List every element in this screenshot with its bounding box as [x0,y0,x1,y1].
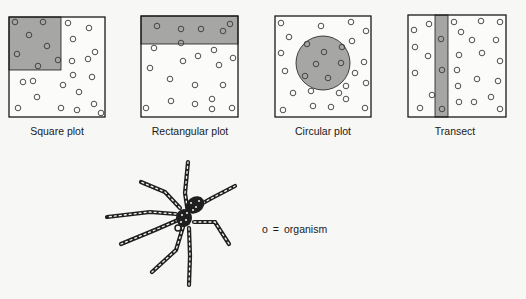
plot-transect [408,15,506,117]
legend: o=organism [262,223,327,235]
sample-area [435,15,448,117]
spider-icon [107,162,235,285]
plots-layer [9,15,506,117]
plot-rectangular [141,16,238,117]
legend-organism-symbol: o [262,223,268,235]
sample-area [141,16,238,44]
plot-area [408,15,506,117]
plot-label-rectangular: Rectangular plot [152,125,228,137]
sample-area [9,17,61,70]
plot-label-square: Square plot [30,125,84,137]
plot-label-circular: Circular plot [295,125,351,137]
sampling-diagram [0,0,526,299]
plot-circular [275,16,371,117]
plot-label-transect: Transect [435,125,475,137]
legend-organism-text: organism [284,223,327,235]
plot-square [9,17,105,117]
legend-equals: = [273,223,279,235]
